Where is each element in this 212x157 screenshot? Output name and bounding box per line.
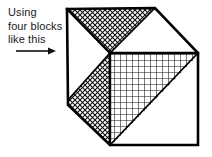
caption: Using four blocks like this xyxy=(8,6,66,47)
caption-line-2: four blocks xyxy=(8,20,66,34)
caption-line-1: Using xyxy=(8,6,66,20)
cube-diagram-figure: Using four blocks like this xyxy=(0,0,212,157)
arrow-head-icon xyxy=(48,48,56,55)
caption-line-3: like this xyxy=(8,33,66,47)
right-arrow xyxy=(16,48,56,55)
